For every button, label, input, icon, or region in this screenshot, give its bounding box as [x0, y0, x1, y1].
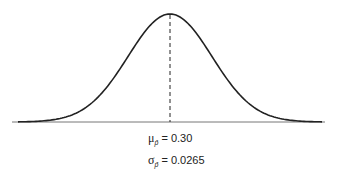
sd-label: σp̂ = 0.0265	[148, 153, 205, 168]
sd-value: = 0.0265	[161, 154, 204, 166]
sd-subscript: p̂	[154, 161, 158, 168]
mean-label: μp̂ = 0.30	[148, 131, 192, 146]
mean-value: = 0.30	[161, 132, 192, 144]
mean-subscript: p̂	[154, 139, 158, 146]
